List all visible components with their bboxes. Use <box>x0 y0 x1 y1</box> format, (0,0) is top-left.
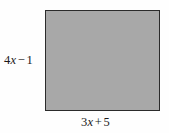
width-label: 3x+5 <box>81 116 110 129</box>
width-label-operator: + <box>93 115 103 129</box>
height-label: 4x−1 <box>4 54 33 67</box>
rectangle-shape <box>45 10 160 111</box>
width-label-constant: 5 <box>103 115 109 129</box>
height-label-operator: − <box>16 53 26 67</box>
geometry-figure: 4x−1 3x+5 <box>0 0 169 133</box>
height-label-constant: 1 <box>26 53 32 67</box>
